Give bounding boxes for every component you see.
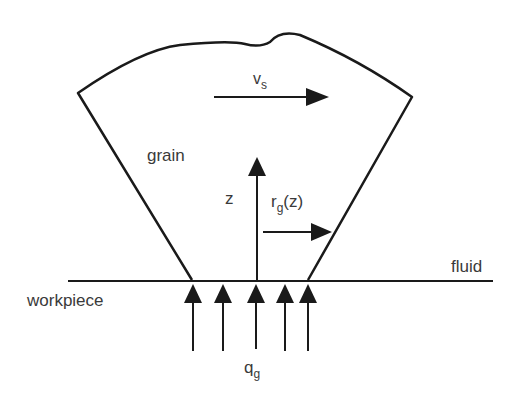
grain-heat-flux-diagram: vs grain z rg(z) fluid workpiece qg [0,0,514,399]
z-label: z [225,189,234,208]
grain-outline [78,34,412,280]
z-axis-arrow [248,157,266,281]
heat-flux-arrows [184,284,317,351]
workpiece-label: workpiece [26,291,104,310]
vs-label: vs [253,70,267,92]
fluid-label: fluid [451,257,482,276]
qg-label: qg [244,358,260,381]
rg-label: rg(z) [271,192,303,215]
velocity-arrow [214,88,329,106]
radius-arrow [263,223,332,241]
grain-label: grain [147,146,185,165]
